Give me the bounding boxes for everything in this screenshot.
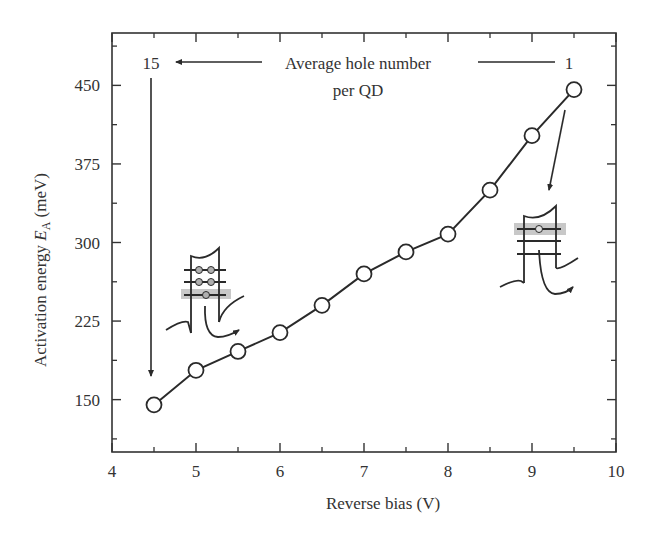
data-point-marker	[357, 266, 372, 281]
data-point-marker	[273, 325, 288, 340]
x-tick-label: 4	[108, 462, 117, 481]
arrow-to-inset-icon	[549, 110, 565, 190]
x-tick-label: 6	[276, 462, 285, 481]
data-point-marker	[399, 244, 414, 259]
annotation-line2: per QD	[333, 81, 384, 100]
data-point-marker	[231, 344, 246, 359]
annotation-number-15: 15	[143, 54, 160, 73]
data-point-marker	[567, 82, 582, 97]
y-axis-title: Activation energy EA (meV)	[31, 173, 53, 367]
data-point-marker	[441, 227, 456, 242]
data-point-marker	[525, 128, 540, 143]
data-point-marker	[315, 298, 330, 313]
x-tick-label: 10	[608, 462, 625, 481]
annotation-line1: Average hole number	[285, 54, 431, 73]
annotation-number-1: 1	[565, 54, 574, 73]
x-axis-title: Reverse bias (V)	[326, 494, 440, 513]
x-tick-label: 5	[192, 462, 201, 481]
data-point-marker	[483, 183, 498, 198]
y-tick-label: 300	[75, 234, 101, 253]
inset-right-band-diagram-icon	[500, 206, 578, 294]
y-tick-label: 375	[75, 155, 101, 174]
y-tick-label: 225	[75, 312, 101, 331]
data-point-marker	[147, 397, 162, 412]
x-tick-label: 9	[528, 462, 537, 481]
data-series	[147, 82, 582, 412]
y-tick-label: 150	[75, 391, 101, 410]
x-tick-label: 8	[444, 462, 453, 481]
data-point-marker	[189, 363, 204, 378]
x-tick-label: 7	[360, 462, 369, 481]
series-line	[154, 90, 574, 405]
inset-left-band-diagram-icon	[166, 248, 244, 337]
chart: 45678910150225300375450 Reverse bias (V)…	[0, 0, 657, 536]
y-tick-label: 450	[75, 76, 101, 95]
